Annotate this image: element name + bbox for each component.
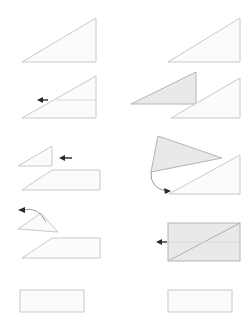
fold-arrow-left-icon — [156, 239, 167, 245]
panel-1-right — [168, 18, 240, 62]
panel-2-left — [22, 76, 96, 118]
panel-3-left — [18, 146, 100, 190]
panel-5-left — [20, 290, 84, 312]
rectangle-result — [168, 290, 232, 312]
arrow-curve — [151, 172, 166, 191]
arrow-head — [156, 239, 162, 245]
trapezoid — [22, 170, 100, 190]
triangle-small — [18, 146, 52, 166]
triangle-shaded — [131, 72, 196, 104]
arrow-head — [37, 97, 43, 103]
panel-4-left — [18, 207, 100, 258]
rectangle-result — [20, 290, 84, 312]
triangle-rotated — [18, 213, 58, 232]
arrow-head — [59, 155, 65, 161]
panel-3-right — [151, 136, 240, 194]
panel-5-right — [168, 290, 232, 312]
panel-2-right — [131, 72, 240, 118]
panel-4-right — [156, 223, 240, 261]
panel-1-left — [22, 18, 96, 62]
fold-arrow-left-icon — [37, 97, 48, 103]
fold-arrow-left-icon — [59, 155, 72, 161]
triangle-outline — [22, 18, 96, 62]
triangle-outline — [168, 18, 240, 62]
fold-arrow-curved-down-icon — [151, 172, 171, 194]
arrow-head — [18, 207, 25, 213]
fold-diagram-canvas — [0, 0, 252, 329]
triangle-shaded-rotated — [151, 136, 222, 172]
trapezoid — [22, 238, 100, 258]
fold-diagram-svg — [0, 0, 252, 329]
triangle-outline — [22, 76, 96, 118]
